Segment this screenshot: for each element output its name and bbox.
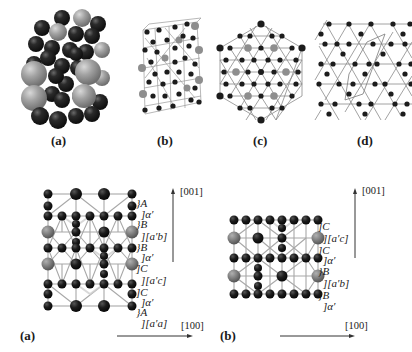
top-caption-a: (a) xyxy=(51,133,66,149)
top-panel-d-kagome-net xyxy=(315,20,412,130)
bottom-caption-b: (b) xyxy=(220,328,236,344)
hexagonal-projection-graphic xyxy=(216,20,306,125)
layer-label-b-alpha-2: ]α′ xyxy=(323,301,335,312)
layer-label-b-C-1: ]C xyxy=(318,221,330,232)
layer-label-b-ac: ][a′c] xyxy=(323,233,349,244)
layer-stacking-graphic-b xyxy=(228,214,324,298)
arrow-up-icon xyxy=(353,188,357,194)
layer-stacking-graphic-a xyxy=(40,186,140,316)
top-caption-d: (d) xyxy=(357,133,373,149)
axis-label-001-b: [001] xyxy=(362,185,385,196)
top-panel-a-space-filling-model xyxy=(20,10,110,130)
layer-label-a-aa: ][a′a] xyxy=(141,318,167,329)
layer-label-b-ab: ][a′b] xyxy=(323,278,349,289)
arrow-right-icon xyxy=(349,334,355,338)
bottom-panel-a-layer-projection xyxy=(40,186,140,316)
axis-label-001-a: [001] xyxy=(180,186,203,197)
top-caption-c: (c) xyxy=(253,133,267,149)
axis-label-100-b: [100] xyxy=(345,320,368,331)
top-panel-c-hexagonal-projection xyxy=(216,20,306,125)
layer-label-a-C-1: ]C xyxy=(136,263,148,274)
bottom-panel-b-layer-projection xyxy=(228,214,324,298)
bottom-caption-a: (a) xyxy=(20,328,35,344)
layer-label-a-B-1: }B xyxy=(136,219,147,230)
arrow-right-icon xyxy=(187,334,193,338)
kagome-net-graphic xyxy=(315,20,412,130)
ball-and-stick-structure-graphic xyxy=(135,18,205,118)
layer-label-a-ac: ][a′c] xyxy=(141,275,167,286)
axis-label-100-a: [100] xyxy=(181,320,204,331)
arrow-up-icon xyxy=(171,188,175,194)
layer-label-b-B-1: }B xyxy=(318,266,329,277)
top-panel-b-ball-and-stick xyxy=(135,18,205,118)
space-filling-structure-graphic xyxy=(20,10,110,130)
top-caption-b: (b) xyxy=(157,133,173,149)
